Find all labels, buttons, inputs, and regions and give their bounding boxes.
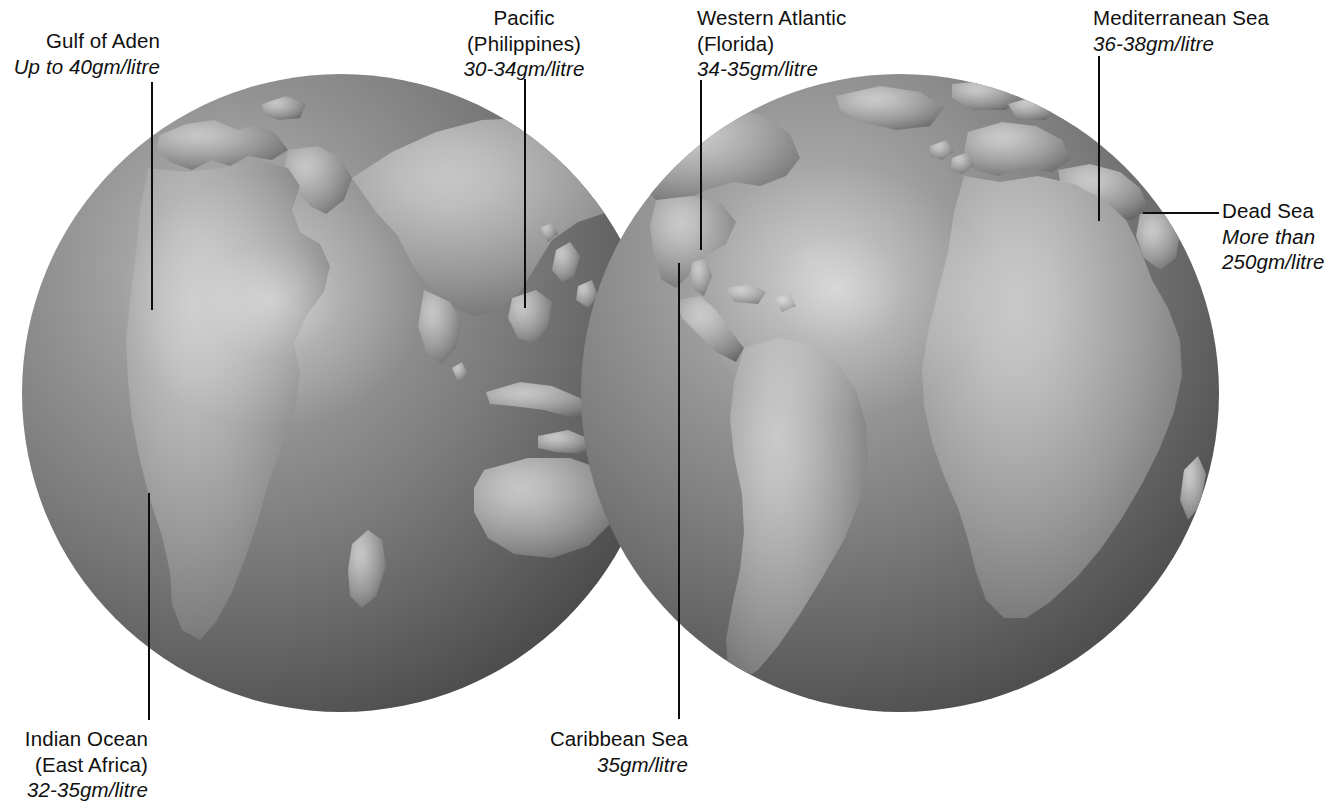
callout-value-pacific: 30-34gm/litre (413, 56, 635, 82)
callout-value-mediterranean: 36-38gm/litre (1093, 31, 1323, 57)
callout-mediterranean: Mediterranean Sea 36-38gm/litre (1093, 5, 1323, 56)
eastern-hemisphere-globe (22, 74, 660, 712)
western-hemisphere-globe (581, 74, 1219, 712)
callout-place-pacific: Pacific (413, 5, 635, 31)
callout-subplace-indian-ocean: (East Africa) (0, 752, 148, 778)
leader-line-western-atlantic (700, 80, 702, 250)
callout-dead-sea: Dead Sea More than 250gm/litre (1222, 198, 1326, 275)
callout-subplace-pacific: (Philippines) (413, 31, 635, 57)
callout-pacific: Pacific (Philippines) 30-34gm/litre (413, 5, 635, 82)
callout-place-mediterranean: Mediterranean Sea (1093, 5, 1323, 31)
callout-place-caribbean: Caribbean Sea (540, 726, 688, 752)
callout-place-dead-sea: Dead Sea (1222, 198, 1326, 224)
callout-place-gulf-of-aden: Gulf of Aden (10, 28, 160, 54)
callout-indian-ocean: Indian Ocean (East Africa) 32-35gm/litre (0, 726, 148, 803)
callout-place-indian-ocean: Indian Ocean (0, 726, 148, 752)
callout-value-dead-sea-1: More than (1222, 224, 1326, 250)
leader-line-gulf-of-aden (151, 82, 153, 310)
callout-gulf-of-aden: Gulf of Aden Up to 40gm/litre (10, 28, 160, 79)
callout-caribbean: Caribbean Sea 35gm/litre (540, 726, 688, 777)
leader-line-mediterranean (1098, 56, 1100, 221)
leader-line-caribbean (678, 263, 680, 719)
callout-value-caribbean: 35gm/litre (540, 752, 688, 778)
callout-western-atlantic: Western Atlantic (Florida) 34-35gm/litre (697, 5, 937, 82)
callout-value-gulf-of-aden: Up to 40gm/litre (10, 54, 160, 80)
callout-place-western-atlantic: Western Atlantic (697, 5, 937, 31)
callout-value-dead-sea-2: 250gm/litre (1222, 249, 1326, 275)
callout-subplace-western-atlantic: (Florida) (697, 31, 937, 57)
leader-line-pacific (524, 79, 526, 308)
callout-value-western-atlantic: 34-35gm/litre (697, 56, 937, 82)
callout-value-indian-ocean: 32-35gm/litre (0, 777, 148, 803)
leader-line-indian-ocean (148, 493, 150, 720)
leader-line-dead-sea (1143, 212, 1219, 214)
